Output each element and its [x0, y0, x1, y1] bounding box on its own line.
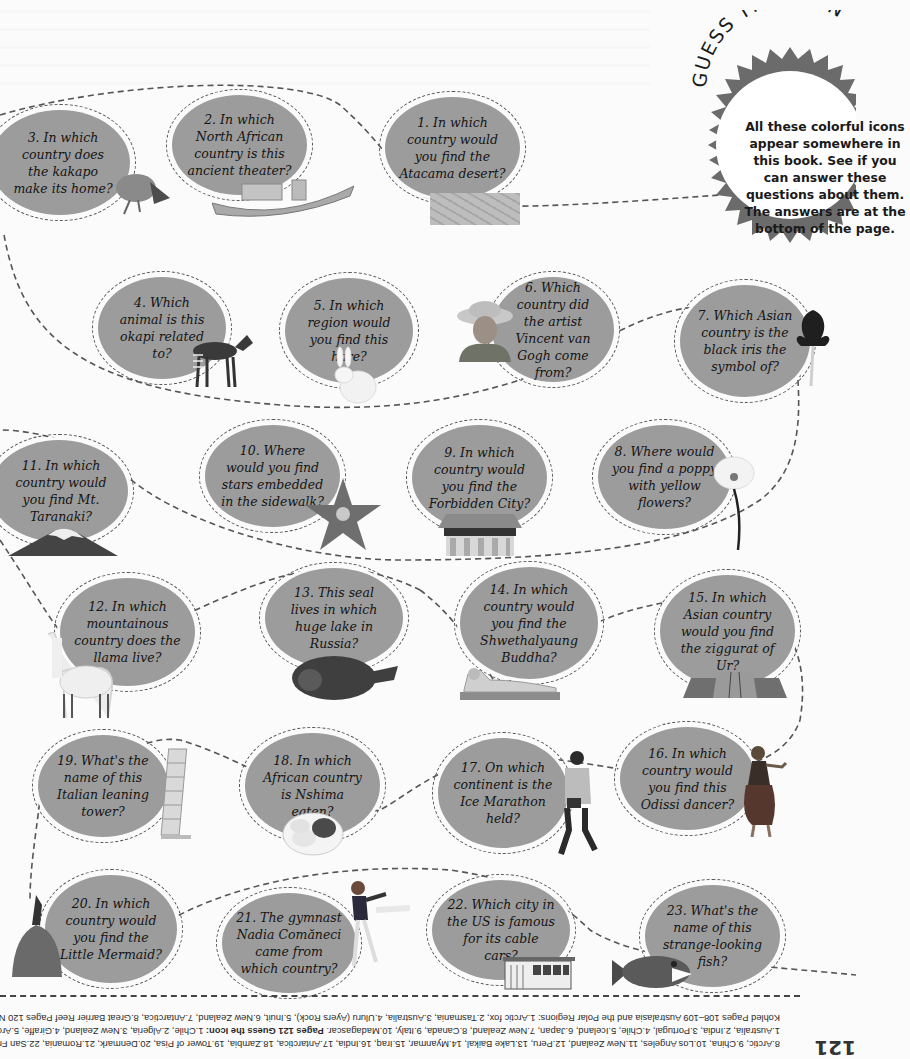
question-bubble-19: 19. What's the name of this Italian lean… — [38, 735, 168, 837]
question-text: 13. This seal lives in which huge lake i… — [265, 584, 403, 652]
forbidden-city-icon — [438, 510, 522, 556]
answers-line-3: 8.Arctic, 9.China, 10.Los Angeles, 11.Ne… — [0, 1037, 780, 1050]
ancient-theater-icon — [212, 178, 354, 218]
gymnast-icon — [340, 880, 410, 970]
question-text: 17. On which continent is the Ice Marath… — [438, 759, 568, 827]
question-text: 1. In which country would you find the A… — [385, 114, 520, 182]
question-bubble-16: 16. In which country would you find this… — [620, 727, 755, 830]
arctic-hare-icon — [330, 345, 380, 407]
question-text: 11. In which country would you find Mt. … — [0, 457, 128, 525]
question-text: 22. Which city in the US is famous for i… — [432, 896, 570, 964]
question-text: 7. Which Asian country is the black iris… — [680, 307, 810, 375]
okapi-icon — [185, 333, 257, 391]
kakapo-parrot-icon — [110, 168, 174, 216]
nshima-dish-icon — [282, 808, 344, 856]
question-text: 20. In which country would you find the … — [45, 895, 177, 963]
walk-of-fame-star-icon — [305, 478, 381, 550]
question-bubble-1: 1. In which country would you find the A… — [385, 97, 520, 199]
answers-line-1: Kohled Pages 108–109 Australasia and the… — [0, 1011, 780, 1024]
van-gogh-portrait-icon — [455, 300, 515, 362]
question-bubble-21: 21. The gymnast Nadia Comăneci came from… — [222, 893, 356, 993]
badge-intro-text: All these colorful icons appear somewher… — [740, 118, 910, 237]
question-text: 21. The gymnast Nadia Comăneci came from… — [222, 909, 356, 977]
reclining-buddha-icon — [460, 666, 560, 702]
marathon-runner-icon — [555, 750, 601, 856]
question-text: 2. In which North African country is thi… — [172, 111, 307, 179]
question-bubble-17: 17. On which continent is the Ice Marath… — [438, 738, 568, 848]
black-iris-icon — [795, 310, 831, 386]
poppy-icon — [712, 455, 756, 550]
cable-car-icon — [503, 955, 575, 993]
mountain-icon — [8, 526, 118, 556]
leaning-tower-icon — [155, 745, 195, 841]
odissi-dancer-icon — [736, 745, 792, 837]
toothfish-icon — [612, 950, 692, 996]
question-bubble-20: 20. In which country would you find the … — [45, 875, 177, 983]
answers-footer: 8.Arctic, 9.China, 10.Los Angeles, 11.Ne… — [0, 1001, 820, 1050]
answers-text: 1.Chile, 2.Algeria, 3.New Zealand, 4.Gir… — [0, 1026, 206, 1036]
seal-icon — [290, 650, 402, 702]
question-text: 16. In which country would you find this… — [620, 745, 755, 813]
question-bubble-7: 7. Which Asian country is the black iris… — [680, 285, 810, 397]
desert-icon — [430, 193, 520, 225]
page-number: 121 — [822, 1030, 856, 1059]
bleed-through-area — [0, 0, 650, 85]
answers-line-2: 1.Australia, 2.India, 3.Portugal, 4.Chil… — [0, 1024, 780, 1037]
question-text: 14. In which country would you find the … — [460, 581, 598, 666]
question-text: 15. In which Asian country would you fin… — [660, 589, 795, 674]
little-mermaid-icon — [12, 895, 62, 977]
answers-heading: Pages 121 Guess the Icon: — [206, 1026, 324, 1036]
question-text: 19. What's the name of this Italian lean… — [38, 752, 168, 820]
llama-icon — [42, 632, 117, 720]
ziggurat-icon — [683, 670, 787, 698]
question-bubble-14: 14. In which country would you find the … — [460, 567, 598, 679]
question-text: 9. In which country would you find the F… — [412, 444, 547, 512]
answers-text: 1.Australia, 2.India, 3.Portugal, 4.Chil… — [324, 1026, 780, 1036]
